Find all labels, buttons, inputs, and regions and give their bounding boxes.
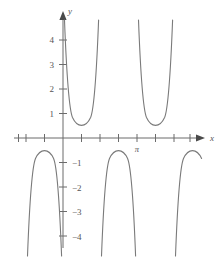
y-tick-label-2: 2 (50, 84, 55, 94)
curve-branch-lower-2 (102, 151, 136, 256)
x-axis-label: x (209, 133, 214, 143)
graph-figure: y x 4 3 2 1 −1 −2 −3 −4 π (0, 0, 223, 258)
y-axis-label: y (67, 6, 72, 16)
y-tick-label-neg3: −3 (72, 207, 82, 217)
curve-branch-upper-2 (139, 20, 173, 125)
y-tick-label-neg2: −2 (72, 183, 82, 193)
function-plot: y x 4 3 2 1 −1 −2 −3 −4 π (0, 0, 223, 258)
y-axis-arrowhead (59, 11, 66, 20)
y-tick-label-neg4: −4 (72, 232, 82, 242)
curve-branch-lower-3 (176, 151, 202, 256)
x-tick-label-pi: π (135, 144, 140, 154)
curve-branch-lower-1 (28, 151, 62, 256)
x-axis-arrowhead (196, 134, 205, 141)
y-tick-label-3: 3 (50, 60, 55, 70)
y-tick-label-4: 4 (50, 35, 55, 45)
y-tick-label-neg1: −1 (72, 158, 82, 168)
curve-branch-upper-1 (65, 20, 99, 125)
y-tick-label-1: 1 (50, 109, 55, 119)
